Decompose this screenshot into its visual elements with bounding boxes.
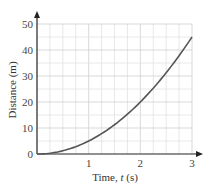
axes [34, 11, 203, 157]
y-axis-title: Distance (m) [6, 61, 19, 118]
x-tick-label: 3 [189, 157, 195, 169]
y-tick-label: 10 [22, 122, 34, 134]
grid [37, 24, 192, 154]
tick-labels: 12301020304050 [22, 18, 195, 169]
y-tick-label: 20 [22, 96, 34, 108]
y-axis-arrow-icon [34, 11, 40, 18]
x-axis-title: Time, t (s) [92, 171, 138, 184]
y-tick-label: 30 [22, 70, 34, 82]
x-axis-arrow-icon [196, 151, 203, 157]
distance-time-chart: 12301020304050 Time, t (s) Distance (m) [0, 0, 213, 193]
x-tick-label: 1 [86, 157, 92, 169]
x-tick-label: 2 [138, 157, 144, 169]
y-tick-label: 40 [22, 44, 34, 56]
y-tick-label: 50 [22, 18, 34, 30]
y-tick-label: 0 [28, 148, 34, 160]
